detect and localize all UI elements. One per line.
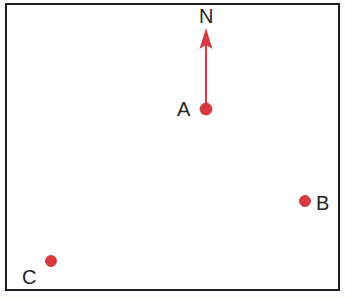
map-vector-layer xyxy=(0,0,345,298)
north-arrow-label: N xyxy=(199,6,214,26)
figure-canvas: N A B C xyxy=(0,0,345,298)
point-c-label: C xyxy=(22,267,37,287)
point-b-label: B xyxy=(316,193,330,213)
point-a-label: A xyxy=(177,99,191,119)
